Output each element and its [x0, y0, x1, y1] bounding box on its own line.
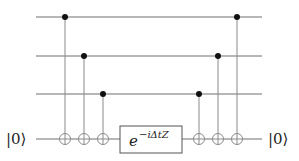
evolution-gate-exponent: −iΔtZ [139, 129, 170, 140]
evolution-gate-base: e [129, 132, 138, 150]
quantum-circuit: e −iΔtZ |0⟩ |0⟩ [0, 0, 299, 161]
cnot-control-dot-left-1 [81, 53, 87, 59]
cnot-control-dot-right-1 [215, 53, 221, 59]
cnot-control-dot-left-0 [62, 14, 68, 20]
cnot-control-dot-left-2 [100, 91, 106, 97]
cnot-control-dot-right-0 [196, 91, 202, 97]
input-ket-label: |0⟩ [6, 130, 26, 148]
cnot-control-dot-right-2 [234, 14, 240, 20]
output-ket-label: |0⟩ [268, 130, 288, 148]
